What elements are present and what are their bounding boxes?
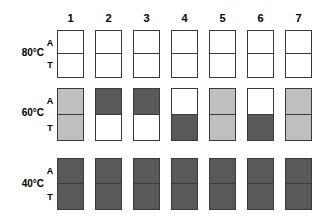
column-header-4: 4 xyxy=(171,12,199,24)
lane-half-A xyxy=(248,31,273,54)
lane-half-T xyxy=(96,184,121,209)
lane-half-T xyxy=(134,184,159,209)
lane-box xyxy=(247,158,274,210)
lane-box xyxy=(57,30,84,78)
lane-box xyxy=(95,158,122,210)
lane-box xyxy=(209,30,236,78)
column-header-1: 1 xyxy=(57,12,85,24)
lane-box xyxy=(57,88,84,141)
column-header-5: 5 xyxy=(209,12,237,24)
lane-half-A xyxy=(210,159,235,184)
lane-box xyxy=(247,88,274,141)
sublabel-T: T xyxy=(45,60,55,70)
lane-box xyxy=(133,88,160,141)
lane-box xyxy=(171,88,198,141)
gel-figure: 123456780°CAT60°CAT40°CAT xyxy=(0,0,321,218)
lane-half-T xyxy=(58,184,83,209)
lane-half-T xyxy=(248,115,273,141)
lane-half-T xyxy=(248,184,273,209)
lane-half-T xyxy=(286,54,311,77)
lane-box xyxy=(285,30,312,78)
row-temperature-label: 40°C xyxy=(4,178,44,189)
lane-half-T xyxy=(172,54,197,77)
lane-half-A xyxy=(96,31,121,54)
lane-half-A xyxy=(134,89,159,115)
lane-half-A xyxy=(96,89,121,115)
column-header-6: 6 xyxy=(247,12,275,24)
lane-half-T xyxy=(58,54,83,77)
lane-box xyxy=(285,158,312,210)
row-temperature-label: 80°C xyxy=(4,47,44,58)
lane-box xyxy=(95,30,122,78)
lane-half-T xyxy=(172,115,197,141)
lane-half-A xyxy=(58,31,83,54)
sublabel-A: A xyxy=(45,166,55,176)
lane-half-A xyxy=(58,159,83,184)
column-header-7: 7 xyxy=(285,12,313,24)
lane-half-A xyxy=(248,89,273,115)
column-header-3: 3 xyxy=(133,12,161,24)
lane-half-A xyxy=(210,89,235,115)
lane-box xyxy=(247,30,274,78)
lane-half-A xyxy=(248,159,273,184)
lane-half-T xyxy=(210,115,235,141)
lane-box xyxy=(133,30,160,78)
lane-half-A xyxy=(172,159,197,184)
lane-half-A xyxy=(172,89,197,115)
lane-half-A xyxy=(134,159,159,184)
lane-half-T xyxy=(248,54,273,77)
lane-half-T xyxy=(210,54,235,77)
sublabel-T: T xyxy=(45,192,55,202)
lane-box xyxy=(57,158,84,210)
lane-box xyxy=(171,158,198,210)
lane-box xyxy=(209,88,236,141)
lane-half-A xyxy=(134,31,159,54)
lane-box xyxy=(209,158,236,210)
lane-half-T xyxy=(286,184,311,209)
lane-half-A xyxy=(58,89,83,115)
column-header-2: 2 xyxy=(95,12,123,24)
lane-half-A xyxy=(286,159,311,184)
lane-half-T xyxy=(134,54,159,77)
lane-box xyxy=(133,158,160,210)
lane-box xyxy=(171,30,198,78)
lane-half-T xyxy=(96,115,121,141)
lane-half-A xyxy=(210,31,235,54)
row-temperature-label: 60°C xyxy=(4,107,44,118)
lane-box xyxy=(285,88,312,141)
lane-half-A xyxy=(286,31,311,54)
lane-half-A xyxy=(96,159,121,184)
lane-half-T xyxy=(210,184,235,209)
sublabel-T: T xyxy=(45,123,55,133)
lane-half-A xyxy=(286,89,311,115)
lane-half-T xyxy=(134,115,159,141)
lane-half-T xyxy=(286,115,311,141)
lane-half-T xyxy=(58,115,83,141)
sublabel-A: A xyxy=(45,96,55,106)
lane-box xyxy=(95,88,122,141)
lane-half-T xyxy=(96,54,121,77)
lane-half-A xyxy=(172,31,197,54)
sublabel-A: A xyxy=(45,38,55,48)
lane-half-T xyxy=(172,184,197,209)
